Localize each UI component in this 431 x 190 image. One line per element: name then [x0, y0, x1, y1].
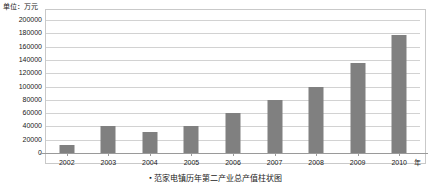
- bar: [267, 100, 282, 153]
- x-axis-tick-label: 2007: [267, 158, 283, 167]
- chart-figure: 单位：万元 2000001800001600001400001200001000…: [0, 0, 431, 190]
- y-axis-tick-label: 140000: [19, 56, 42, 64]
- y-axis-tick-label: 20000: [23, 136, 42, 144]
- chart-caption: ▪范家电镇历年第二产业总产值柱状图: [0, 172, 431, 184]
- y-axis-tick-label: 160000: [19, 43, 42, 51]
- x-axis-tick-mark: [399, 153, 400, 156]
- y-axis-tick-label: 200000: [19, 16, 42, 24]
- x-axis-unit-label: 年: [414, 158, 421, 167]
- bar-series: [46, 20, 420, 153]
- x-axis-tick-mark: [150, 153, 151, 156]
- y-axis-tick-label: 80000: [23, 96, 42, 104]
- x-axis-tick-mark: [67, 153, 68, 156]
- caption-text: 范家电镇历年第二产业总产值柱状图: [154, 174, 282, 183]
- x-axis-tick-mark: [108, 153, 109, 156]
- bar: [309, 87, 324, 154]
- bar: [142, 132, 157, 153]
- y-axis-tick-label: 120000: [19, 69, 42, 77]
- bar: [350, 63, 365, 153]
- plot-area: 2000001800001600001400001200001000008000…: [46, 20, 420, 153]
- bar: [184, 126, 199, 153]
- x-axis-tick-label: 2004: [142, 158, 158, 167]
- x-axis-tick-mark: [191, 153, 192, 156]
- y-axis-tick-label: 180000: [19, 29, 42, 37]
- x-axis-tick-label: 2006: [225, 158, 241, 167]
- x-axis-tick-mark: [275, 153, 276, 156]
- y-axis-tick-label: 100000: [19, 83, 42, 91]
- bar: [392, 35, 407, 153]
- x-axis-tick-mark: [358, 153, 359, 156]
- x-axis-tick-label: 2005: [184, 158, 200, 167]
- y-axis-tick-label: 40000: [23, 122, 42, 130]
- x-axis-tick-label: 2008: [308, 158, 324, 167]
- x-axis-tick-label: 2010: [391, 158, 407, 167]
- x-axis-tick-label: 2003: [101, 158, 117, 167]
- x-axis-tick-label: 2002: [59, 158, 75, 167]
- x-axis-tick-mark: [233, 153, 234, 156]
- x-axis-tick-mark: [316, 153, 317, 156]
- caption-bullet-icon: ▪: [149, 174, 151, 181]
- x-axis-line: [40, 153, 428, 154]
- y-axis-unit-label: 单位：万元: [3, 2, 38, 11]
- x-axis-tick-label: 2009: [350, 158, 366, 167]
- bar: [226, 113, 241, 153]
- y-axis-tick-label: 60000: [23, 109, 42, 117]
- bar: [101, 126, 116, 153]
- bar: [59, 145, 74, 153]
